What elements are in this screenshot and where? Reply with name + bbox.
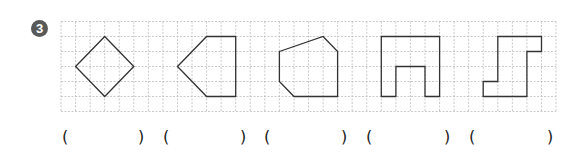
close-paren: ): [138, 128, 144, 146]
close-paren: ): [547, 128, 553, 146]
open-paren: (: [163, 128, 169, 146]
open-paren: (: [62, 128, 68, 146]
close-paren: ): [341, 128, 347, 146]
shape-grid: [0, 0, 585, 158]
open-paren: (: [366, 128, 372, 146]
close-paren: ): [240, 128, 246, 146]
open-paren: (: [469, 128, 475, 146]
close-paren: ): [444, 128, 450, 146]
open-paren: (: [264, 128, 270, 146]
